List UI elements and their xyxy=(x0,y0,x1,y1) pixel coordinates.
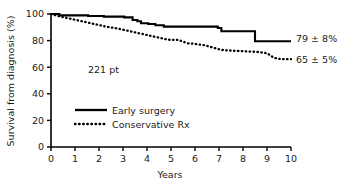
y-axis-title: Survival from diagnosis (%) xyxy=(5,16,16,147)
x-tick-label: 6 xyxy=(192,153,198,164)
x-tick-label: 10 xyxy=(285,153,297,164)
y-tick-label: 40 xyxy=(32,88,44,99)
series-end-label-early-surgery: 79 ± 8% xyxy=(296,33,337,44)
y-tick-label: 100 xyxy=(26,8,44,19)
y-axis-tick-labels: 020406080100 xyxy=(26,8,44,152)
x-tick-label: 8 xyxy=(240,153,246,164)
y-tick-label: 20 xyxy=(32,115,44,126)
x-tick-label: 5 xyxy=(168,153,174,164)
x-tick-label: 1 xyxy=(72,153,78,164)
x-tick-label: 9 xyxy=(264,153,270,164)
y-tick-label: 60 xyxy=(32,62,44,73)
x-axis-title: Years xyxy=(156,169,182,180)
legend-label-conservative-rx: Conservative Rx xyxy=(112,119,190,130)
legend-label-early-surgery: Early surgery xyxy=(112,105,176,116)
x-tick-label: 2 xyxy=(96,153,102,164)
x-tick-label: 4 xyxy=(144,153,150,164)
chart-legend: Early surgery Conservative Rx xyxy=(75,105,190,130)
y-tick-label: 0 xyxy=(38,141,44,152)
y-tick-label: 80 xyxy=(32,35,44,46)
x-tick-label: 3 xyxy=(120,153,126,164)
x-axis-tick-labels: 012345678910 xyxy=(48,153,297,164)
x-tick-label: 0 xyxy=(48,153,54,164)
chart-canvas: 020406080100 012345678910 79 ± 8% 65 ± 5… xyxy=(0,0,337,184)
survival-chart: 020406080100 012345678910 79 ± 8% 65 ± 5… xyxy=(0,0,337,184)
series-line-early-surgery xyxy=(51,14,291,41)
series-end-label-conservative-rx: 65 ± 5% xyxy=(296,54,337,65)
x-tick-label: 7 xyxy=(216,153,222,164)
patient-count-annotation: 221 pt xyxy=(88,64,119,75)
